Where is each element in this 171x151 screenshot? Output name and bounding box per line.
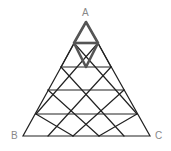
- vertex-label-c: C: [155, 131, 162, 141]
- triangle-grid-svg: [0, 0, 171, 151]
- vertex-label-a: A: [82, 8, 89, 18]
- grid-lines: [23, 22, 150, 136]
- highlighted-rhombus: [74, 22, 98, 67]
- vertex-label-b: B: [11, 131, 18, 141]
